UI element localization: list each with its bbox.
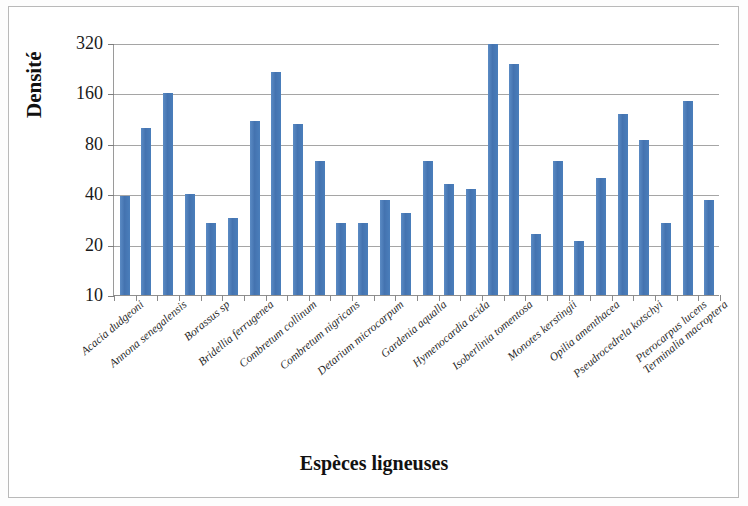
y-axis-tick-label: 40 bbox=[57, 184, 103, 205]
bar bbox=[618, 114, 628, 295]
figure-container: Densité Acacia dudgeoniAnnona senegalens… bbox=[0, 0, 748, 506]
x-axis-category-label: Annona senegalensis bbox=[107, 298, 189, 369]
y-axis-tick bbox=[108, 195, 114, 196]
bar bbox=[315, 161, 325, 295]
y-axis-tick bbox=[108, 145, 114, 146]
y-axis-tick-label: 10 bbox=[57, 285, 103, 306]
bar bbox=[141, 128, 151, 295]
bar bbox=[509, 64, 519, 295]
bar bbox=[163, 93, 173, 295]
bar bbox=[250, 121, 260, 295]
x-axis-category-label: Hymenocardia acida bbox=[410, 298, 492, 369]
bar bbox=[271, 72, 281, 295]
bar bbox=[185, 194, 195, 295]
gridline bbox=[114, 145, 719, 146]
bar bbox=[553, 161, 563, 295]
plot-area bbox=[113, 44, 719, 296]
y-axis-tick bbox=[108, 94, 114, 95]
x-axis-category-label: Bridellia ferrugenea bbox=[195, 298, 275, 368]
x-axis-category-label: Detarium microcarpum bbox=[314, 298, 405, 377]
x-axis-title: Espèces ligneuses bbox=[0, 452, 748, 475]
gridline bbox=[114, 195, 719, 196]
y-axis-tick-label: 160 bbox=[57, 83, 103, 104]
bar bbox=[444, 184, 454, 295]
y-axis-tick-label: 80 bbox=[57, 134, 103, 155]
bar bbox=[683, 101, 693, 295]
bar bbox=[380, 200, 390, 295]
y-axis-title: Densité bbox=[22, 52, 47, 119]
bar bbox=[639, 140, 649, 295]
x-axis-tick-labels: Acacia dudgeoniAnnona senegalensisBorass… bbox=[113, 298, 733, 448]
bar bbox=[661, 223, 671, 295]
bar bbox=[531, 234, 541, 295]
x-axis-category-label: Combretum collinum bbox=[237, 298, 319, 370]
bar bbox=[466, 189, 476, 295]
y-axis-tick bbox=[108, 246, 114, 247]
y-axis-tick-label: 320 bbox=[57, 33, 103, 54]
bar bbox=[704, 200, 714, 295]
bar bbox=[228, 218, 238, 295]
bar bbox=[206, 223, 216, 295]
bar bbox=[120, 196, 130, 295]
y-axis-tick-label: 20 bbox=[57, 235, 103, 256]
gridline bbox=[114, 246, 719, 247]
x-axis-category-label: Isoberlinia tomentosa bbox=[450, 298, 535, 372]
bar bbox=[293, 124, 303, 295]
x-axis-category-label: Combretum nigricans bbox=[277, 298, 361, 372]
bar bbox=[488, 44, 498, 295]
gridline bbox=[114, 44, 719, 45]
bar bbox=[336, 223, 346, 295]
bar bbox=[423, 161, 433, 295]
gridline bbox=[114, 94, 719, 95]
y-axis-tick bbox=[108, 44, 114, 45]
bar bbox=[574, 241, 584, 295]
bar bbox=[401, 213, 411, 295]
bar bbox=[596, 178, 606, 295]
bar bbox=[358, 223, 368, 295]
